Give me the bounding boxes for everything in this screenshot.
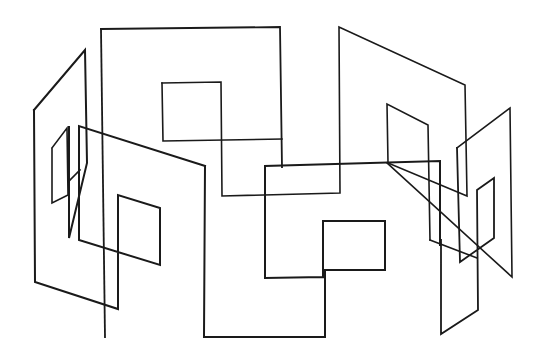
interlocking-panels-drawing bbox=[0, 0, 535, 357]
background bbox=[0, 0, 535, 357]
